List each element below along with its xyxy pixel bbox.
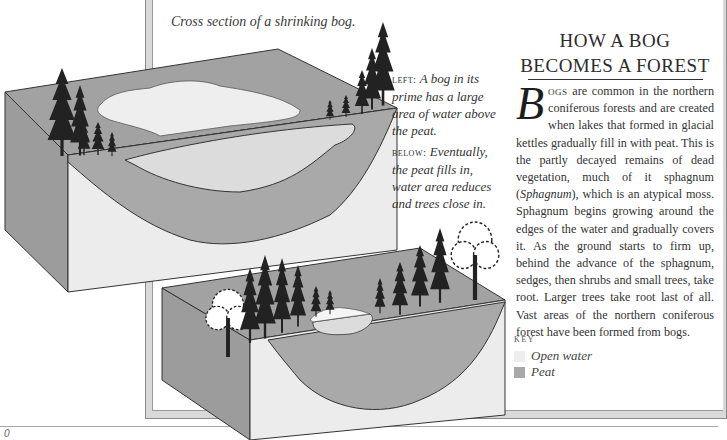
italic-term: Sphag­num — [520, 187, 571, 201]
lead-smallcaps: ogs — [548, 84, 568, 98]
key-item-label: Open water — [531, 348, 592, 364]
article-body: Bogs are common in the northern conifero… — [516, 83, 714, 341]
heading-line-1: HOW A BOG — [510, 28, 720, 53]
article-heading: HOW A BOG BECOMES A FOREST — [510, 28, 720, 78]
key-item-peat: Peat — [514, 364, 555, 380]
drop-cap: B — [516, 86, 544, 122]
annotation-below: below: Eventually, the peat fills in, wa… — [392, 143, 502, 212]
key-item-open-water: Open water — [514, 348, 592, 364]
key-label: KEY — [514, 335, 535, 344]
annotation-left: left: A bog in its prime has a large are… — [392, 70, 502, 139]
heading-line-2: BECOMES A FOREST — [510, 53, 720, 78]
upper-bog-block — [5, 22, 397, 292]
peat-swatch — [514, 367, 525, 378]
key-item-label: Peat — [531, 364, 555, 380]
figure-caption: Cross section of a shrinking bog. — [171, 14, 356, 30]
annotation-below-lead: below: — [392, 146, 427, 158]
annotation-left-lead: left: — [392, 73, 417, 85]
body-part-1: are common in the northern coniferous fo… — [516, 84, 714, 201]
body-part-2: ), which is an atypical moss. Sphag­num … — [516, 187, 714, 339]
heading-underline — [528, 79, 703, 80]
open-water-swatch — [514, 351, 525, 362]
